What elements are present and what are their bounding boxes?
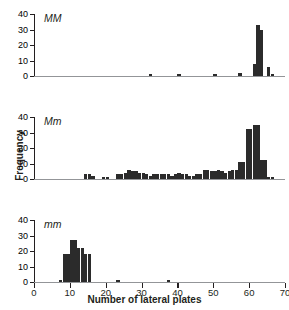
y-axis-tick-label: 0 [6, 72, 28, 81]
y-axis-tick [30, 30, 34, 31]
x-axis-line [34, 179, 285, 180]
y-axis-tick-label: 40 [6, 216, 28, 225]
x-axis-title: Number of lateral plates [0, 294, 289, 305]
histogram-bar [106, 177, 109, 179]
y-axis-line [34, 220, 35, 283]
y-axis-tick [30, 117, 34, 118]
histogram-bar [271, 74, 274, 76]
y-axis-tick-label: 30 [6, 25, 28, 34]
histogram-bar [167, 280, 170, 282]
y-axis-tick-label: 40 [6, 113, 28, 122]
histogram-bar [116, 280, 119, 282]
y-axis-tick [30, 236, 34, 237]
y-axis-tick-label: 30 [6, 231, 28, 240]
y-axis-line [34, 14, 35, 77]
x-axis-line [34, 76, 285, 77]
y-axis-tick [30, 133, 34, 134]
histogram-bar [238, 73, 241, 76]
histogram-bar [88, 254, 91, 282]
y-axis-tick-label: 20 [6, 41, 28, 50]
y-axis-tick-label: 10 [6, 56, 28, 65]
histogram-bar [260, 30, 263, 77]
y-axis-tick-label: 10 [6, 159, 28, 168]
histogram-bar [213, 74, 216, 76]
histogram-bar [149, 74, 152, 76]
y-axis-tick [30, 76, 34, 77]
histogram-bar [91, 176, 94, 179]
y-axis-tick [30, 267, 34, 268]
y-axis-tick-label: 20 [6, 144, 28, 153]
histogram-bar [271, 177, 274, 179]
y-axis-tick-label: 30 [6, 128, 28, 137]
y-axis-tick-label: 0 [6, 175, 28, 184]
y-axis-tick-label: 10 [6, 262, 28, 271]
histogram-bar [263, 160, 266, 179]
y-axis-tick [30, 220, 34, 221]
histogram-bar [177, 74, 180, 76]
y-axis-tick [30, 14, 34, 15]
y-axis-tick [30, 61, 34, 62]
figure-lateral-plates-histograms: Frequency MM 010203040 Mm 010203040 mm 0… [0, 0, 289, 310]
y-axis-tick [30, 164, 34, 165]
panel-label-mm: mm [44, 218, 62, 230]
panel-label-Mm: Mm [44, 115, 62, 127]
y-axis-tick [30, 45, 34, 46]
y-axis-tick-label: 40 [6, 10, 28, 19]
y-axis-line [34, 117, 35, 180]
y-axis-tick [30, 251, 34, 252]
panel-MM: MM 010203040 [0, 0, 289, 100]
y-axis-tick [30, 179, 34, 180]
y-axis-tick [30, 148, 34, 149]
x-axis-ticks: 010203040506070 [0, 283, 289, 288]
y-axis-tick-label: 20 [6, 247, 28, 256]
panel-Mm: Mm 010203040 [0, 103, 289, 203]
panel-label-MM: MM [44, 12, 62, 24]
